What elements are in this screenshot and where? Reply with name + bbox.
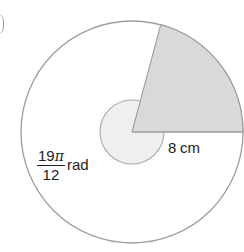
angle-numerator: 19π [37,148,65,166]
pi-symbol: π [55,148,64,164]
circle-diagram [0,0,244,252]
angle-label: 19π 12 rad [37,148,89,183]
angle-denominator: 12 [43,166,60,183]
angle-fraction: 19π 12 [37,148,65,183]
angle-unit: rad [67,157,89,172]
angle-numerator-number: 19 [38,147,55,164]
radius-label: 8 cm [168,140,200,155]
